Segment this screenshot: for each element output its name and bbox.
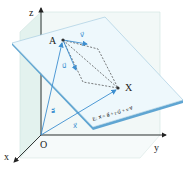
y-label: y [154,142,159,153]
plane-diagram: z y x O A X v⃗ u⃗ a⃗ x⃗ E: x⃗ = a⃗ + r·u… [0,0,191,171]
point-x [116,86,119,89]
vector-u-label: u⃗ [62,62,66,70]
origin-label: O [40,139,47,150]
z-label: z [29,7,34,18]
vector-a-label: a⃗ [51,107,55,115]
vector-x-label: x⃗ [73,122,77,130]
point-a-label: A [49,35,57,46]
x-label: x [4,151,9,162]
point-x-label: X [125,82,133,93]
point-a [61,38,64,41]
vector-v-label: v⃗ [80,31,84,39]
